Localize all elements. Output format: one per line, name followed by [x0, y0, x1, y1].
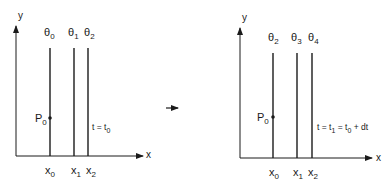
right-x0-label: x0: [269, 167, 279, 181]
left-axes: [16, 26, 143, 156]
right-theta-2-label: θ2: [268, 32, 279, 46]
right-isotherm-lines: [273, 53, 312, 158]
left-time-label: t = t0: [92, 123, 110, 134]
left-theta-1-label: θ1: [68, 27, 79, 41]
right-y-axis-label: y: [242, 13, 247, 23]
right-point-p0: [271, 115, 275, 119]
diagram-canvas: [0, 0, 391, 193]
left-x1-label: x1: [71, 165, 81, 179]
right-theta-3-label: θ3: [291, 32, 302, 46]
right-x-axis-label: x: [376, 153, 381, 163]
left-x-axis-label: x: [146, 150, 151, 160]
left-p0-label: P0: [35, 113, 47, 127]
right-axes: [240, 28, 372, 158]
right-x1-label: x1: [293, 167, 303, 181]
right-x2-label: x2: [308, 167, 318, 181]
left-x0-label: x0: [45, 165, 55, 179]
left-x2-label: x2: [86, 165, 96, 179]
left-theta-0-label: θ0: [44, 27, 55, 41]
left-y-axis-label: y: [18, 11, 23, 21]
left-theta-2-label: θ2: [84, 27, 95, 41]
right-time-label: t = t1 = t0 + dt: [317, 123, 368, 134]
right-theta-4-label: θ4: [308, 32, 319, 46]
left-point-p0: [48, 116, 52, 120]
right-p0-label: P0: [257, 112, 269, 126]
left-isotherm-lines: [50, 48, 88, 156]
